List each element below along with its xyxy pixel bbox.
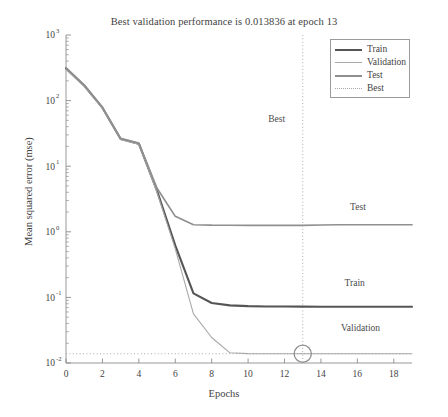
svg-text:2: 2 xyxy=(100,369,105,379)
svg-text:8: 8 xyxy=(209,369,214,379)
svg-text:10: 10 xyxy=(46,162,56,172)
svg-text:12: 12 xyxy=(280,369,290,379)
legend-item-best[interactable]: Best xyxy=(331,82,409,95)
svg-text:Train: Train xyxy=(345,278,365,288)
svg-text:2: 2 xyxy=(56,92,59,99)
legend-swatch-best xyxy=(335,88,362,89)
svg-text:10: 10 xyxy=(46,30,56,40)
svg-text:10: 10 xyxy=(46,96,56,106)
svg-text:10: 10 xyxy=(46,358,56,368)
svg-text:10: 10 xyxy=(46,227,56,237)
legend-swatch-test xyxy=(335,75,362,77)
svg-text:4: 4 xyxy=(136,369,141,379)
svg-text:-1: -1 xyxy=(56,289,62,296)
svg-text:16: 16 xyxy=(353,369,363,379)
svg-text:Validation: Validation xyxy=(341,323,380,333)
svg-text:Test: Test xyxy=(350,202,366,212)
svg-text:14: 14 xyxy=(316,369,326,379)
legend-label-validation: Validation xyxy=(367,56,406,69)
svg-text:10: 10 xyxy=(46,293,56,303)
legend-swatch-train xyxy=(335,49,362,51)
svg-text:10: 10 xyxy=(243,369,253,379)
svg-text:1: 1 xyxy=(56,158,59,165)
legend-label-train: Train xyxy=(367,43,387,56)
svg-text:3: 3 xyxy=(56,27,60,34)
svg-text:-2: -2 xyxy=(56,355,62,362)
legend[interactable]: Train Validation Test Best xyxy=(330,39,410,98)
svg-text:18: 18 xyxy=(389,369,399,379)
legend-label-test: Test xyxy=(367,69,383,82)
legend-label-best: Best xyxy=(367,82,384,95)
legend-swatch-validation xyxy=(335,62,362,63)
legend-item-validation[interactable]: Validation xyxy=(331,56,409,69)
svg-text:0: 0 xyxy=(56,224,60,231)
legend-item-test[interactable]: Test xyxy=(331,69,409,82)
svg-text:6: 6 xyxy=(173,369,178,379)
svg-text:Best: Best xyxy=(268,114,285,124)
svg-text:0: 0 xyxy=(64,369,69,379)
legend-item-train[interactable]: Train xyxy=(331,43,409,56)
inline-annotations: BestTestTrainValidation xyxy=(268,114,380,333)
performance-plot-figure: Best validation performance is 0.013836 … xyxy=(0,0,448,417)
